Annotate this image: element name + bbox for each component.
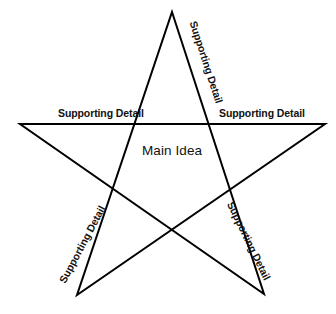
main-idea-label: Main Idea [142,144,202,158]
supporting-detail-label-left: Supporting Detail [58,108,144,119]
supporting-detail-label-right: Supporting Detail [219,108,305,119]
star-diagram: Supporting Detail Supporting Detail Supp… [0,0,336,314]
